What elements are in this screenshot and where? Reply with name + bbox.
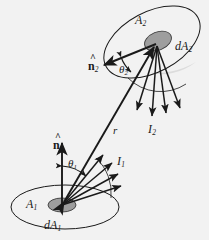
label-intensity-1: I1 [117,155,125,168]
intensity-2-rays [128,46,186,116]
intensity-2-solid-angle-arc [128,78,186,92]
label-normal-1: ^ n1 [53,139,64,152]
label-theta-2: θ2 [119,64,128,76]
label-differential-area-2: dA2 [175,40,192,53]
label-distance-r: r [113,125,117,136]
normal-2-hat-accent: ^ [90,53,96,63]
label-intensity-2: I2 [148,123,156,136]
radiative-exchange-diagram: A2 dA2 ^ n2 θ2 I2 r ^ n1 θ1 I1 A1 dA1 [0,0,209,240]
label-area-1: A1 [26,198,37,211]
label-area-2: A2 [135,14,146,27]
normal-vector-n2 [104,44,156,65]
label-differential-area-1: dA1 [44,219,61,232]
label-theta-1: θ1 [68,158,77,170]
normal-1-hat-accent: ^ [55,132,61,142]
label-normal-2: ^ n2 [88,60,99,73]
